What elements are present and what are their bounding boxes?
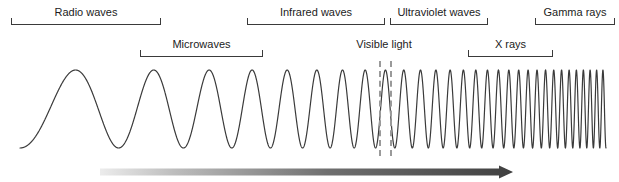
arrow-shape bbox=[100, 166, 513, 179]
increasing-frequency-arrow bbox=[0, 0, 619, 182]
electromagnetic-spectrum-figure: Radio waves Infrared waves Ultraviolet w… bbox=[0, 0, 619, 182]
